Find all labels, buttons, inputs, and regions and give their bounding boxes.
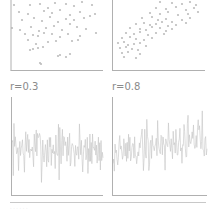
scatter-point	[129, 36, 131, 38]
scatter-point	[171, 2, 173, 4]
scatter-point	[189, 17, 191, 19]
scatter-point	[161, 21, 163, 23]
scatter-point	[147, 34, 149, 36]
scatter-point	[117, 42, 119, 44]
scatter-point	[165, 30, 167, 32]
line-panel-bottom-left	[0, 95, 105, 197]
scatter-point	[125, 46, 127, 48]
scatter-point	[185, 9, 187, 11]
scatter-point	[171, 28, 173, 30]
scatter-point	[151, 16, 153, 18]
scatter-point	[121, 37, 123, 39]
scatter-point	[177, 14, 179, 16]
scatter-point	[195, 4, 197, 6]
scatter-point	[135, 57, 137, 59]
scatter-point	[157, 19, 159, 21]
line-chart-r08	[104, 95, 209, 197]
scatter-point	[193, 7, 195, 9]
scatter-point	[151, 37, 153, 39]
scatter-point	[133, 33, 135, 35]
scatter-plot-strong-correlation	[0, 0, 209, 75]
scatter-point	[145, 45, 147, 47]
scatter-point	[185, 22, 187, 24]
scatter-point	[189, 1, 191, 3]
correlation-label-left: r=0.3	[10, 82, 38, 92]
scatter-point	[143, 22, 145, 24]
line-panel-bottom-right	[104, 95, 209, 197]
data-series-line	[12, 123, 103, 182]
scatter-point	[171, 21, 173, 23]
scatter-point	[181, 3, 183, 5]
scatter-point	[155, 7, 157, 9]
scatter-point	[167, 11, 169, 13]
scatter-point	[165, 18, 167, 20]
correlation-label-right: r=0.8	[112, 82, 140, 92]
scatter-point	[133, 43, 135, 45]
scatter-point	[175, 6, 177, 8]
scatter-point	[127, 51, 129, 53]
scatter-point	[149, 12, 151, 14]
scatter-point	[151, 26, 153, 28]
divider-line	[10, 202, 206, 203]
scatter-point	[123, 41, 125, 43]
line-chart-r03	[0, 95, 105, 197]
data-series-line	[113, 111, 207, 171]
scatter-point	[155, 23, 157, 25]
scatter-point	[135, 38, 137, 40]
footer-caption: · · · · · ·	[10, 205, 27, 211]
scatter-point	[139, 53, 141, 55]
scatter-point	[131, 48, 133, 50]
scatter-point	[181, 19, 183, 21]
scatter-point	[143, 39, 145, 41]
scatter-point	[159, 13, 161, 15]
scatter-point	[139, 28, 141, 30]
scatter-point	[119, 47, 121, 49]
scatter-point	[165, 8, 167, 10]
scatter-point	[167, 25, 169, 27]
scatter-point	[155, 32, 157, 34]
scatter-point	[123, 56, 125, 58]
scatter-point	[163, 33, 165, 35]
scatter-point	[141, 17, 143, 19]
scatter-point	[175, 24, 177, 26]
scatter-panel-top-right	[0, 0, 209, 75]
scatter-point	[121, 52, 123, 54]
scatter-point	[197, 11, 199, 13]
scatter-point	[139, 31, 141, 33]
scatter-point	[129, 27, 131, 29]
scatter-point	[149, 24, 151, 26]
scatter-point	[187, 13, 189, 15]
scatter-point	[159, 1, 161, 3]
scatter-point	[139, 42, 141, 44]
scatter-point	[145, 29, 147, 31]
scatter-point	[135, 23, 137, 25]
scatter-point	[137, 49, 139, 51]
scatter-point	[159, 27, 161, 29]
scatter-point	[125, 32, 127, 34]
scatter-point	[127, 44, 129, 46]
